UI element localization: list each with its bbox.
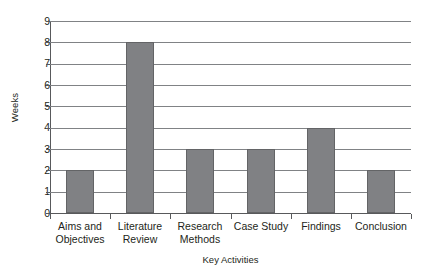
y-axis-title: Weeks xyxy=(6,0,24,214)
x-axis-category-labels: Aims andObjectivesLiteratureReviewResear… xyxy=(50,220,411,254)
x-category-label: ResearchMethods xyxy=(170,220,230,246)
x-category-label-line2: Methods xyxy=(170,233,230,246)
plot-area xyxy=(50,21,411,213)
x-category-label: Conclusion xyxy=(351,220,411,233)
x-category-label: Case Study xyxy=(231,220,291,233)
x-category-label-line1: Research xyxy=(178,220,223,232)
bar xyxy=(126,42,154,213)
x-tick-mark xyxy=(231,214,232,219)
x-axis-title-label: Key Activities xyxy=(203,254,259,265)
x-tick-mark xyxy=(50,214,51,219)
bar xyxy=(66,170,94,213)
y-axis-title-label: Weeks xyxy=(10,92,21,121)
bar xyxy=(247,149,275,213)
x-category-label: Findings xyxy=(291,220,351,233)
x-category-label: Aims andObjectives xyxy=(50,220,110,246)
x-tick-mark xyxy=(351,214,352,219)
bar xyxy=(367,170,395,213)
bars-layer xyxy=(50,21,411,213)
x-tick-mark xyxy=(291,214,292,219)
x-category-label-line2: Review xyxy=(110,233,170,246)
x-category-label-line1: Literature xyxy=(118,220,162,232)
x-axis-title: Key Activities xyxy=(50,254,411,265)
x-tick-mark xyxy=(110,214,111,219)
x-category-label: LiteratureReview xyxy=(110,220,170,246)
x-tick-mark xyxy=(170,214,171,219)
x-tick-mark xyxy=(411,214,412,219)
bar xyxy=(307,128,335,213)
bar-chart: Weeks 0123456789 Aims andObjectivesLiter… xyxy=(0,0,429,274)
x-category-label-line1: Findings xyxy=(301,220,341,232)
x-category-label-line2: Objectives xyxy=(50,233,110,246)
bar xyxy=(186,149,214,213)
x-category-label-line1: Aims and xyxy=(58,220,102,232)
x-category-label-line1: Case Study xyxy=(234,220,288,232)
y-axis-ticks: 0123456789 xyxy=(30,0,50,274)
x-category-label-line1: Conclusion xyxy=(355,220,407,232)
